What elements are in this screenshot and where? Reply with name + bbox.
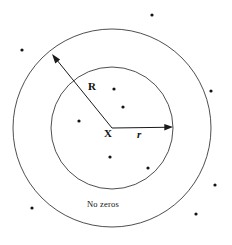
figure-canvas: R X r No zeros: [0, 0, 232, 245]
zero-dot: [150, 13, 153, 16]
inner-radius-label: r: [137, 129, 141, 140]
zero-dot: [30, 206, 33, 209]
center-label: X: [104, 128, 112, 139]
outer-radius-arrow: [52, 54, 112, 128]
zero-dot: [121, 105, 124, 108]
zero-dot: [213, 183, 216, 186]
zero-dot: [194, 212, 197, 215]
zero-dots-layer: [20, 13, 216, 215]
zero-dot: [146, 166, 149, 169]
zero-dot: [209, 89, 212, 92]
zero-dot: [77, 119, 80, 122]
zero-dot: [112, 87, 115, 90]
inner-radius-arrow: [112, 124, 173, 131]
no-zeros-annotation: No zeros: [87, 200, 119, 209]
zero-dot: [108, 155, 111, 158]
zero-dot: [20, 48, 23, 51]
outer-radius-label: R: [88, 81, 96, 92]
